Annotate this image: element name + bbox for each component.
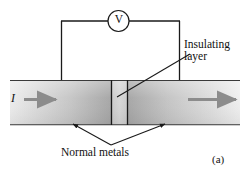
normal-metals-leader-right-branch bbox=[111, 124, 165, 145]
panel-label: (a) bbox=[212, 154, 224, 166]
voltmeter-label: V bbox=[112, 13, 126, 25]
current-label: I bbox=[11, 92, 15, 105]
insulating-layer-label-line2: layer bbox=[184, 50, 230, 62]
metal-slab-group bbox=[10, 80, 240, 125]
slab-vertical-shading bbox=[10, 80, 240, 125]
insulating-layer-label: Insulating layer bbox=[184, 38, 230, 63]
normal-metals-leader-left-branch bbox=[73, 124, 111, 145]
tunnel-junction-figure: V Insulating layer Normal metals I (a) bbox=[0, 0, 250, 174]
insulating-layer-label-line1: Insulating bbox=[184, 38, 230, 50]
normal-metals-label: Normal metals bbox=[61, 146, 129, 158]
normal-metals-leader bbox=[73, 124, 165, 145]
